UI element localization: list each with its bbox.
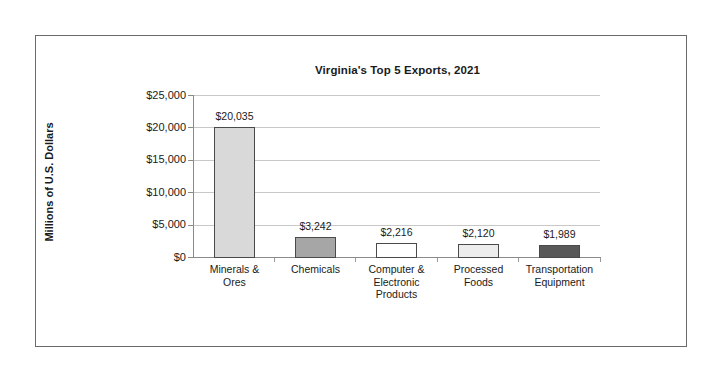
bar-processed-foods[interactable] (458, 244, 499, 258)
x-tick-mark-5 (600, 258, 601, 262)
x-category-line-1: Transportation (513, 263, 606, 276)
bar-minerals-ores[interactable] (214, 127, 255, 258)
bar-value-minerals-ores: $20,035 (194, 110, 275, 122)
y-tick-label-0: $0 (120, 251, 186, 263)
x-category-line-3: Products (350, 288, 443, 301)
y-tick-label-15000: $15,000 (120, 153, 186, 165)
y-axis-tick-labels: $25,000 $20,000 $15,000 $10,000 $5,000 $… (120, 0, 186, 376)
x-category-label-minerals-ores: Minerals & Ores (194, 263, 275, 288)
y-tick-label-20000: $20,000 (120, 121, 186, 133)
bar-computer-electronic-products[interactable] (376, 243, 417, 258)
y-tick-label-5000: $5,000 (120, 218, 186, 230)
x-tick-mark-1 (274, 258, 275, 262)
x-category-line-1: Processed (438, 263, 519, 276)
y-axis-title: Millions of U.S. Dollars (43, 92, 55, 272)
x-category-label-chemicals: Chemicals (275, 263, 356, 276)
x-category-line-2: Foods (438, 276, 519, 289)
x-tick-mark-2 (355, 258, 356, 262)
bar-value-chemicals: $3,242 (275, 220, 356, 232)
x-category-label-computer-electronic-products: Computer & Electronic Products (350, 263, 443, 301)
x-category-label-transportation-equipment: Transportation Equipment (513, 263, 606, 288)
x-category-line-2: Electronic (350, 276, 443, 289)
bar-chemicals[interactable] (295, 237, 336, 258)
y-tick-label-10000: $10,000 (120, 186, 186, 198)
bar-transportation-equipment[interactable] (539, 245, 580, 258)
x-tick-mark-4 (518, 258, 519, 262)
x-tick-mark-3 (437, 258, 438, 262)
x-category-line-2: Ores (194, 276, 275, 289)
y-tick-label-25000: $25,000 (120, 89, 186, 101)
x-category-line-1: Computer & (350, 263, 443, 276)
gridline-25000 (193, 95, 600, 96)
bar-value-transportation-equipment: $1,989 (519, 228, 600, 240)
bar-chart: Virginia's Top 5 Exports, 2021 Millions … (0, 0, 722, 376)
x-category-line-2: Equipment (513, 276, 606, 289)
bar-value-computer-electronic-products: $2,216 (356, 226, 437, 238)
chart-title: Virginia's Top 5 Exports, 2021 (190, 64, 605, 76)
bar-value-processed-foods: $2,120 (438, 227, 519, 239)
x-category-line-1: Minerals & (194, 263, 275, 276)
x-category-label-processed-foods: Processed Foods (438, 263, 519, 288)
x-category-line-1: Chemicals (275, 263, 356, 276)
